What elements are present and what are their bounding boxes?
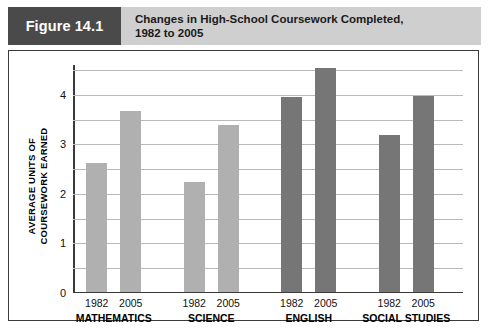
bar-science-1982 <box>184 182 205 291</box>
y-axis-tick-label: 3 <box>60 138 66 150</box>
y-axis-tick-label: 4 <box>60 89 66 101</box>
figure-title-line-2: 1982 to 2005 <box>135 26 481 40</box>
y-axis-title-line-1: AVERAGE UNITS OF <box>26 127 38 244</box>
figure-number-tag: Figure 14.1 <box>8 7 121 45</box>
x-axis-year-label: 2005 <box>314 297 337 309</box>
gridline <box>73 70 463 71</box>
y-axis-tick-label: 2 <box>60 188 66 200</box>
figure-title: Changes in High-School Coursework Comple… <box>121 7 481 45</box>
figure-container: Figure 14.1 Changes in High-School Cours… <box>0 0 489 330</box>
x-axis-group-label: SCIENCE <box>188 312 235 324</box>
x-axis-year-label: 1982 <box>280 297 303 309</box>
x-axis-year-label: 2005 <box>119 297 142 309</box>
x-axis-year-label: 2005 <box>412 297 435 309</box>
x-axis-year-label: 1982 <box>85 297 108 309</box>
x-axis-group-label: MATHEMATICS <box>76 312 152 324</box>
figure-title-line-1: Changes in High-School Coursework Comple… <box>135 12 481 26</box>
bar-social-studies-2005 <box>413 96 434 292</box>
x-axis-year-label: 1982 <box>378 297 401 309</box>
y-axis-tick-label: 0 <box>60 287 66 299</box>
bar-mathematics-2005 <box>120 111 141 292</box>
bar-science-2005 <box>218 125 239 291</box>
chart-frame: AVERAGE UNITS OF COURSEWORK EARNED 01234… <box>8 50 479 321</box>
x-axis-group-label: SOCIAL STUDIES <box>362 312 450 324</box>
bar-social-studies-1982 <box>379 135 400 291</box>
gridline <box>73 95 463 96</box>
x-axis-group-label: ENGLISH <box>285 312 332 324</box>
y-axis-line <box>73 65 75 293</box>
y-axis-title: AVERAGE UNITS OF COURSEWORK EARNED <box>26 127 50 244</box>
bar-english-2005 <box>315 68 336 291</box>
bar-mathematics-1982 <box>86 163 107 292</box>
bar-english-1982 <box>281 97 302 291</box>
plot-area: 0123419822005MATHEMATICS19822005SCIENCE1… <box>73 65 463 293</box>
x-axis-line <box>73 292 463 294</box>
x-axis-year-label: 1982 <box>183 297 206 309</box>
y-axis-tick-label: 1 <box>60 237 66 249</box>
x-axis-year-label: 2005 <box>217 297 240 309</box>
figure-header: Figure 14.1 Changes in High-School Cours… <box>8 7 481 45</box>
y-axis-title-line-2: COURSEWORK EARNED <box>38 127 50 244</box>
